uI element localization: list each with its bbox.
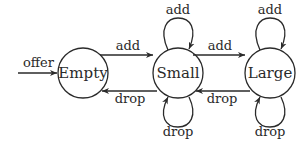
loop-large-drop	[255, 97, 284, 127]
edge-label-drop-1: drop	[115, 91, 146, 106]
edge-label-drop-3: drop	[207, 91, 238, 106]
state-label-small: Small	[156, 64, 199, 82]
edge-label-add-2: add	[166, 2, 190, 17]
edge-label-drop-4: drop	[255, 124, 286, 139]
edge-label-add-1: add	[116, 38, 140, 53]
edge-label-offer: offer	[23, 55, 55, 70]
loop-small-add	[164, 18, 193, 50]
edge-label-add-4: add	[258, 2, 282, 17]
state-label-large: Large	[248, 64, 293, 82]
state-large: Large	[245, 48, 295, 98]
state-diagram: offer Empty Small Large add drop add dro…	[0, 0, 303, 146]
loop-large-add	[256, 18, 285, 50]
edge-label-drop-2: drop	[163, 124, 194, 139]
edge-label-add-3: add	[208, 38, 232, 53]
state-label-empty: Empty	[58, 64, 108, 82]
loop-small-drop	[163, 97, 192, 127]
